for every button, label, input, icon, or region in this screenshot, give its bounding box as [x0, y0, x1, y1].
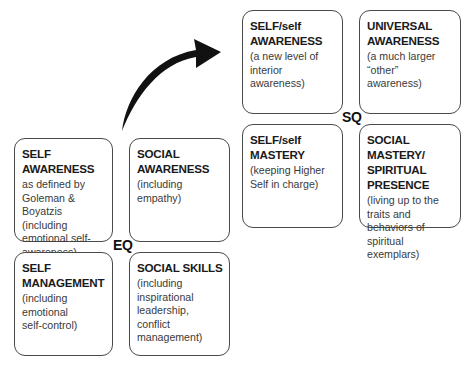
eq-social-skills-box: SOCIAL SKILLS (including inspirational l… [129, 252, 230, 356]
box-title: SOCIAL MASTERY/ SPIRITUAL PRESENCE [367, 132, 454, 192]
box-title: SELF/self AWARENESS [250, 18, 336, 48]
box-description: (including empathy) [137, 178, 223, 205]
sq-universal-awareness-box: UNIVERSAL AWARENESS (a much larger “othe… [359, 10, 461, 114]
eq-self-management-box: SELF MANAGEMENT (including emotional sel… [14, 252, 113, 356]
box-title: SOCIAL AWARENESS [137, 146, 223, 176]
sq-label: SQ [342, 109, 362, 125]
box-title: SELF AWARENESS [22, 146, 106, 176]
box-description: (including emotional self-control) [22, 292, 106, 333]
sq-self-mastery-box: SELF/self MASTERY (keeping Higher Self i… [242, 124, 343, 228]
box-title: SELF/self MASTERY [250, 132, 336, 162]
sq-self-awareness-box: SELF/self AWARENESS (a new level of inte… [242, 10, 343, 114]
box-description: (keeping Higher Self in charge) [250, 164, 336, 191]
box-description: as defined by Goleman & Boyatzis (includ… [22, 178, 106, 260]
box-description: (living up to the traits and behaviors o… [367, 194, 454, 262]
box-description: (a new level of interior awareness) [250, 50, 336, 91]
box-description: (a much larger “other” awareness) [367, 50, 454, 91]
box-title: SELF MANAGEMENT [22, 260, 106, 290]
eq-social-awareness-box: SOCIAL AWARENESS (including empathy) [129, 138, 230, 242]
box-title: SOCIAL SKILLS [137, 260, 223, 275]
eq-label: EQ [113, 237, 133, 253]
eq-self-awareness-box: SELF AWARENESS as defined by Goleman & B… [14, 138, 113, 242]
box-title: UNIVERSAL AWARENESS [367, 18, 454, 48]
sq-social-mastery-box: SOCIAL MASTERY/ SPIRITUAL PRESENCE (livi… [359, 124, 461, 228]
box-description: (including inspirational leadership, con… [137, 277, 223, 345]
